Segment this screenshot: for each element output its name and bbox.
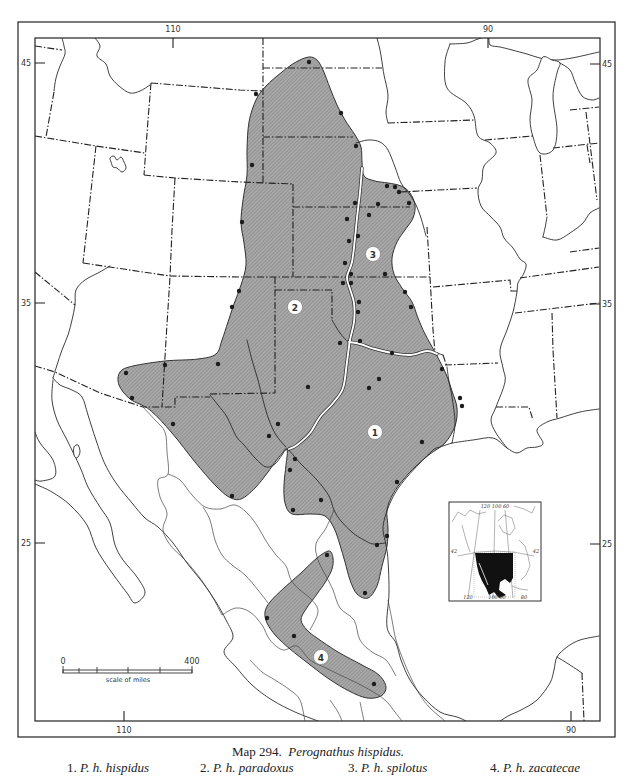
- locality-dot: [460, 404, 464, 408]
- state-boundary: [586, 112, 597, 200]
- map-caption: Map 294. Perognathus hispidus.: [0, 744, 634, 760]
- range-label-text: 1: [372, 428, 378, 438]
- latitude-label-left: 35: [21, 299, 31, 308]
- state-boundary: [388, 120, 475, 123]
- locality-dot: [409, 305, 413, 309]
- locality-dot: [440, 367, 444, 371]
- longitude-label-top: 110: [165, 25, 180, 34]
- scale-bar-bar: [63, 670, 192, 673]
- state-boundary: [520, 267, 599, 278]
- state-boundary: [570, 248, 599, 252]
- locality-dot: [163, 363, 167, 367]
- range-label-2: 2: [288, 300, 303, 315]
- inset-bottom-left: 120: [463, 594, 473, 600]
- locality-dot: [339, 111, 343, 115]
- locality-dot: [124, 371, 128, 375]
- legend-subspecies: P. h. paradoxus: [213, 760, 294, 775]
- locality-dot: [240, 220, 244, 224]
- state-boundary: [144, 83, 151, 175]
- legend-number: 4.: [490, 760, 500, 775]
- state-boundary: [35, 46, 62, 50]
- state-boundary: [83, 146, 96, 263]
- locality-dot: [354, 144, 358, 148]
- yucatan-coast: [500, 636, 599, 721]
- locality-dot: [267, 434, 271, 438]
- river-snake: [54, 38, 65, 91]
- great-salt-lake: [110, 156, 126, 172]
- inset-bottom-middle: 100 90: [488, 594, 506, 600]
- locality-dot: [393, 185, 397, 189]
- lake-superior-shore: [450, 37, 599, 60]
- locality-dot: [356, 310, 360, 314]
- inset-locator-map: 120 100 60 42 42 120 100 90 80: [449, 502, 541, 601]
- inset-right-latitude: 42: [532, 548, 539, 554]
- state-boundary: [496, 407, 533, 420]
- legend-item-4: 4. P. h. zacatecae: [490, 760, 580, 776]
- map-number: Map 294.: [232, 744, 282, 759]
- range-polygon-main: [118, 57, 457, 598]
- guatemala-border: [557, 657, 582, 673]
- legend-subspecies: P. h. spilotus: [361, 760, 427, 775]
- locality-dot: [383, 272, 387, 276]
- river-mississippi: [444, 44, 526, 448]
- locality-dot: [237, 289, 241, 293]
- locality-dot: [349, 272, 353, 276]
- locality-dot: [385, 534, 389, 538]
- scale-bar-ticks: [63, 666, 192, 673]
- latitude-label-right: 45: [602, 60, 612, 69]
- locality-dot: [353, 201, 357, 205]
- locality-dot: [230, 305, 234, 309]
- state-boundary: [515, 303, 599, 313]
- locality-dot: [292, 634, 296, 638]
- legend-number: 3.: [348, 760, 358, 775]
- locality-dot: [356, 234, 360, 238]
- locality-dot: [347, 239, 351, 243]
- locality-dot: [265, 616, 269, 620]
- latitude-label-left: 45: [21, 59, 31, 68]
- latitude-label-right: 25: [602, 540, 612, 549]
- locality-dot: [293, 457, 297, 461]
- state-boundary: [400, 188, 477, 192]
- locality-dot: [291, 508, 295, 512]
- vizcaino-coast: [35, 432, 56, 481]
- state-boundary: [46, 92, 54, 137]
- state-boundary: [151, 83, 263, 91]
- locality-dot: [306, 385, 310, 389]
- legend-number: 1.: [67, 760, 77, 775]
- state-boundary: [427, 227, 435, 353]
- inset-left-latitude: 42: [450, 548, 457, 554]
- locality-dot: [325, 553, 329, 557]
- locality-dot: [341, 281, 345, 285]
- locality-dot: [385, 184, 389, 188]
- inset-top-longitudes: 120 100 60: [481, 503, 510, 509]
- locality-dot: [367, 386, 371, 390]
- scale-bar-min: 0: [60, 657, 65, 666]
- river-wabash: [543, 217, 547, 237]
- scale-bar: 0 400 scale of miles: [60, 657, 199, 684]
- locality-dot: [367, 213, 371, 217]
- locality-dot: [171, 422, 175, 426]
- state-boundary: [35, 136, 145, 153]
- baja-california-coast: [35, 380, 145, 603]
- locality-dot: [230, 494, 234, 498]
- locality-dot: [130, 396, 134, 400]
- river-ohio: [543, 208, 599, 240]
- mexico-state-boundary: [388, 600, 445, 721]
- state-boundary: [587, 145, 590, 163]
- inset-bottom-right: 80: [521, 594, 528, 600]
- locality-dot: [390, 351, 394, 355]
- island-tiburon: [74, 445, 80, 458]
- river-colorado: [53, 266, 110, 378]
- locality-dot: [349, 281, 353, 285]
- state-boundary: [570, 107, 599, 110]
- legend-item-1: 1. P. h. hispidus: [67, 760, 149, 776]
- locality-dot: [343, 261, 347, 265]
- state-boundary: [433, 280, 518, 291]
- locality-dot: [458, 396, 462, 400]
- locality-dot: [276, 422, 280, 426]
- locality-dot: [375, 543, 379, 547]
- locality-dot: [376, 202, 380, 206]
- distribution-map: 1 2 3 4 0 400 scale of miles: [0, 0, 634, 776]
- locality-dot: [403, 290, 407, 294]
- locality-dot: [358, 339, 362, 343]
